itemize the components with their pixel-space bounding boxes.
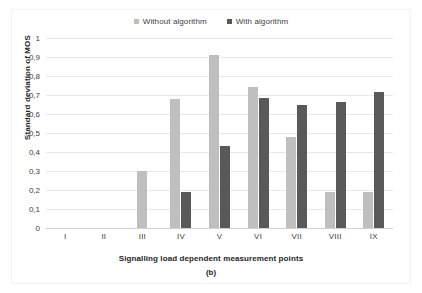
x-axis-tick-label: VIII [316,232,355,241]
bar-iii-series-1 [137,171,147,228]
y-axis-tick-label: 0,3 [29,167,40,176]
bar-group-v [200,38,239,228]
figure-caption: (b) [0,268,422,277]
bar-viii-series-1 [325,192,335,228]
x-axis-tick-label: IV [162,232,201,241]
x-axis-tick-label: V [200,232,239,241]
x-axis-tick-label: VI [239,232,278,241]
x-axis-tick-label: III [123,232,162,241]
bar-group-ix [355,38,394,228]
bar-group-ii [85,38,124,228]
bar-group-iv [162,38,201,228]
bar-ix-series-2 [374,92,384,228]
bar-group-i [46,38,85,228]
x-axis-tick-label: I [46,232,85,241]
y-axis-title: Standard deviation of MOS [23,8,32,168]
bar-vi-series-1 [248,87,258,228]
bar-group-vi [239,38,278,228]
x-axis-tick-label: VII [277,232,316,241]
bar-vii-series-2 [297,105,307,229]
bar-v-series-1 [209,55,219,228]
x-axis-title: Signalling load dependent measurement po… [0,254,422,263]
y-axis-tick-label: 0 [36,224,40,233]
bar-groups [46,38,393,228]
bar-vi-series-2 [259,98,269,228]
bar-group-vii [277,38,316,228]
x-axis-tick-label: IX [355,232,394,241]
x-axis-tick-label: II [85,232,124,241]
axis-baseline [46,228,393,229]
chart-figure: Without algorithm With algorithm 00,10,2… [0,0,422,293]
bar-vii-series-1 [286,137,296,228]
bar-ix-series-1 [363,192,373,228]
bar-v-series-2 [220,146,230,228]
bar-group-viii [316,38,355,228]
bar-group-iii [123,38,162,228]
y-axis-tick-label: 0,1 [29,205,40,214]
x-axis-tick-labels: IIIIIIIVVVIVIIVIIIIX [46,232,393,241]
y-axis-tick-label: 0,2 [29,186,40,195]
bar-viii-series-2 [336,102,346,228]
bar-iv-series-2 [181,192,191,228]
y-axis-tick-label: 1 [36,34,40,43]
bar-iv-series-1 [170,99,180,228]
